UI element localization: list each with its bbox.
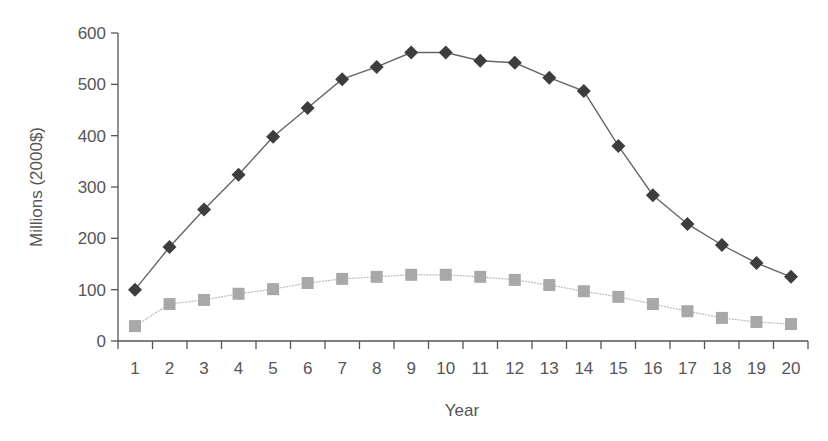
x-tick-label: 4	[234, 359, 243, 378]
square-marker	[716, 312, 728, 324]
square-marker	[647, 298, 659, 310]
diamond-marker	[439, 46, 453, 60]
x-tick-label: 5	[268, 359, 277, 378]
diamond-marker	[749, 256, 763, 270]
x-tick-label: 6	[303, 359, 312, 378]
x-tick-label: 10	[436, 359, 455, 378]
x-tick-label: 7	[337, 359, 346, 378]
x-tick-label: 2	[165, 359, 174, 378]
square-marker	[336, 273, 348, 285]
x-axis: 1234567891011121314151617181920	[118, 341, 808, 378]
y-axis-title: Millions (2000$)	[27, 127, 46, 247]
y-axis: 0100200300400500600	[78, 24, 118, 351]
y-tick-label: 300	[78, 178, 106, 197]
x-tick-label: 3	[199, 359, 208, 378]
diamond-marker	[508, 56, 522, 70]
square-marker	[164, 298, 176, 310]
square-marker	[198, 294, 210, 306]
square-marker	[681, 305, 693, 317]
series-2	[129, 269, 797, 332]
x-tick-label: 11	[471, 359, 489, 378]
square-marker	[233, 288, 245, 300]
x-tick-label: 9	[406, 359, 415, 378]
square-marker	[543, 279, 555, 291]
x-tick-label: 15	[609, 359, 628, 378]
y-tick-label: 400	[78, 127, 106, 146]
square-marker	[267, 283, 279, 295]
square-marker	[509, 274, 521, 286]
series-1	[128, 46, 798, 297]
square-marker	[302, 277, 314, 289]
square-marker	[785, 318, 797, 330]
diamond-marker	[128, 283, 142, 297]
square-marker	[578, 285, 590, 297]
x-tick-label: 14	[574, 359, 593, 378]
diamond-marker	[577, 84, 591, 98]
diamond-marker	[715, 238, 729, 252]
square-marker	[440, 269, 452, 281]
x-tick-label: 12	[505, 359, 524, 378]
line-chart: 0100200300400500600 12345678910111213141…	[0, 0, 828, 441]
x-tick-label: 1	[130, 359, 139, 378]
y-tick-label: 600	[78, 24, 106, 43]
x-tick-label: 18	[712, 359, 731, 378]
x-tick-label: 20	[782, 359, 801, 378]
square-marker	[371, 271, 383, 283]
diamond-marker	[611, 139, 625, 153]
x-tick-label: 16	[643, 359, 662, 378]
y-tick-label: 100	[78, 281, 106, 300]
square-marker	[405, 269, 417, 281]
square-marker	[612, 291, 624, 303]
x-tick-label: 8	[372, 359, 381, 378]
x-tick-label: 13	[540, 359, 559, 378]
diamond-marker	[404, 46, 418, 60]
series-layer	[128, 46, 798, 333]
square-marker	[129, 320, 141, 332]
y-tick-label: 200	[78, 229, 106, 248]
y-tick-label: 0	[97, 332, 106, 351]
diamond-marker	[784, 270, 798, 284]
x-axis-title: Year	[445, 401, 480, 420]
diamond-marker	[542, 71, 556, 85]
x-tick-label: 19	[747, 359, 766, 378]
y-tick-label: 500	[78, 75, 106, 94]
diamond-marker	[473, 54, 487, 68]
x-tick-label: 17	[678, 359, 697, 378]
square-marker	[474, 271, 486, 283]
diamond-marker	[370, 60, 384, 74]
square-marker	[750, 316, 762, 328]
